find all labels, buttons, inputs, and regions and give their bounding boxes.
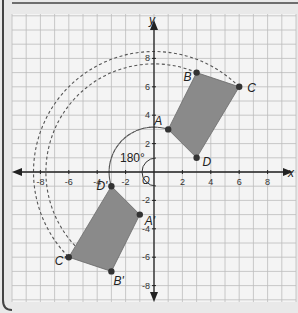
point-label: A' <box>144 214 156 228</box>
x-axis-label: x <box>287 166 295 180</box>
point-a <box>165 126 171 132</box>
point-label: D' <box>96 179 108 193</box>
x-tick-label: -6 <box>65 177 73 187</box>
y-tick-label: 6 <box>145 82 150 92</box>
y-tick-label: 4 <box>145 110 150 120</box>
coordinate-plane: xy-8-6-4-224688642-2-4-6-8O180° ABCDA'B'… <box>0 0 298 313</box>
x-tick-label: 4 <box>208 177 213 187</box>
y-axis-label: y <box>148 13 156 27</box>
point-a-prime <box>137 211 143 217</box>
x-tick-label: -2 <box>122 177 130 187</box>
x-tick-label: -8 <box>36 177 44 187</box>
point-c <box>236 84 242 90</box>
point-label: C <box>247 81 256 95</box>
point-d <box>193 155 199 161</box>
diagram-frame: xy-8-6-4-224688642-2-4-6-8O180° ABCDA'B'… <box>0 0 298 313</box>
point-label: C' <box>55 254 67 268</box>
point-d-prime <box>108 183 114 189</box>
x-tick-label: 8 <box>265 177 270 187</box>
point-b <box>193 69 199 75</box>
point-label: B' <box>113 274 124 288</box>
point-label: B <box>184 70 192 84</box>
y-tick-label: -8 <box>142 281 150 291</box>
y-tick-label: 8 <box>145 53 150 63</box>
point-label: A <box>153 114 162 128</box>
point-c-prime <box>66 254 72 260</box>
x-tick-label: 2 <box>180 177 185 187</box>
y-tick-label: 2 <box>145 139 150 149</box>
y-tick-label: -2 <box>142 195 150 205</box>
y-tick-label: -6 <box>142 252 150 262</box>
point-label: D <box>203 155 212 169</box>
x-tick-label: 6 <box>237 177 242 187</box>
angle-label: 180° <box>120 151 145 165</box>
